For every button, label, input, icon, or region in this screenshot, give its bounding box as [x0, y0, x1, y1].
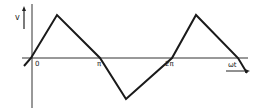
tick-label-0: 0 [35, 61, 39, 68]
waveform-diagram [0, 0, 262, 112]
y-axis-label: v [15, 14, 20, 22]
x-axis-label: ωt [228, 62, 237, 69]
tick-label-pi: π [97, 61, 101, 68]
y-axis-arrow-icon [22, 6, 26, 29]
tick-label-2pi: 2π [165, 61, 174, 68]
triangular-waveform [24, 15, 247, 99]
